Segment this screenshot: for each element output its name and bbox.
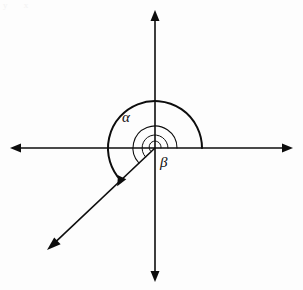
vertical-axis-up-arrow-icon	[151, 10, 160, 21]
terminal-ray-line	[54, 148, 156, 244]
vertical-axis	[151, 10, 160, 282]
horizontal-axis-left-arrow-icon	[10, 144, 21, 153]
beta-label: β	[159, 154, 168, 170]
vertical-axis-down-arrow-icon	[151, 271, 160, 282]
angle-diagram-figure: y x	[0, 0, 303, 290]
horizontal-axis-right-arrow-icon	[282, 144, 293, 153]
diagram-canvas: α β	[0, 0, 303, 290]
alpha-label: α	[122, 109, 131, 125]
